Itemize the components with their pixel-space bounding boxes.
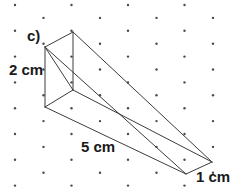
grid-dot [127,55,129,57]
grid-dot [70,184,72,186]
grid-dot [127,133,129,135]
grid-dot [42,146,44,148]
figure-canvas: c) 2 cm 5 cm 1 cm [0,0,235,190]
grid-dot [212,120,214,122]
grid-dot [155,172,157,174]
grid-dot [14,55,16,57]
grid-dot [42,94,44,96]
grid-dot [183,30,185,32]
grid-dot [42,172,44,174]
length-dimension-label: 5 cm [81,139,115,154]
grid-dot [70,30,72,32]
grid-dot [183,159,185,161]
grid-dot [183,55,185,57]
grid-dot [183,4,185,6]
grid-dot [70,107,72,109]
depth-dimension-label: 1 cm [196,169,230,184]
grid-dot [14,30,16,32]
grid-dot [212,94,214,96]
grid-dot [127,184,129,186]
grid-dot [212,146,214,148]
grid-dot [14,81,16,83]
part-label: c) [27,28,40,43]
grid-dot [70,55,72,57]
grid-dot [70,159,72,161]
grid-dot [155,68,157,70]
wedge-prism-edges [45,32,212,174]
grid-dot [14,133,16,135]
grid-dot [42,17,44,19]
grid-dot [127,159,129,161]
grid-dot [127,4,129,6]
grid-dot [155,94,157,96]
figure-edge-top-left-diagonal [45,32,73,47]
grid-dot [183,81,185,83]
grid-dot [14,107,16,109]
grid-dot [99,17,101,19]
grid-dot [155,17,157,19]
grid-dot [42,43,44,45]
grid-dot [155,43,157,45]
grid-dot [99,172,101,174]
grid-dot [155,120,157,122]
figure-edge-bottom-long-edge [45,107,186,174]
grid-dot [70,81,72,83]
grid-dot [183,184,185,186]
grid-dot [99,68,101,70]
grid-dot [212,43,214,45]
grid-dot [127,30,129,32]
grid-dot [127,107,129,109]
figure-edge-bottom-left-diagonal [45,90,73,107]
grid-dot [14,184,16,186]
figure-edge-front-top-long-edge [45,47,186,174]
grid-dot [99,43,101,45]
grid-dot [99,120,101,122]
grid-dot [14,4,16,6]
isometric-dot-grid [14,4,214,187]
grid-dot [183,107,185,109]
grid-dot [70,133,72,135]
grid-dot [212,68,214,70]
grid-dot [14,159,16,161]
height-dimension-label: 2 cm [9,62,43,77]
grid-dot [70,4,72,6]
grid-dot [212,17,214,19]
grid-dot [42,120,44,122]
